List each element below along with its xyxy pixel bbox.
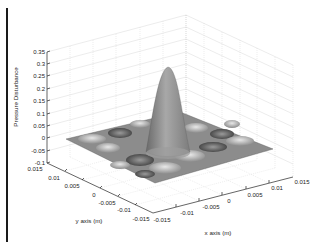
svg-text:0.15: 0.15 bbox=[33, 98, 45, 104]
svg-text:-0.01: -0.01 bbox=[180, 210, 194, 216]
surface-plot: 0.35 0.3 0.25 0.2 0.15 0.1 0.05 0 -0.05 … bbox=[0, 0, 327, 242]
svg-text:0: 0 bbox=[92, 192, 96, 198]
z-tick-labels: 0.35 0.3 0.25 0.2 0.15 0.1 0.05 0 -0.05 … bbox=[31, 49, 45, 166]
svg-text:0: 0 bbox=[227, 198, 231, 204]
svg-text:0.005: 0.005 bbox=[247, 192, 263, 198]
x-tick-labels: -0.015 -0.01 -0.005 0 0.005 0.01 0.015 bbox=[153, 179, 310, 223]
svg-text:0.015: 0.015 bbox=[27, 166, 43, 172]
svg-text:-0.01: -0.01 bbox=[117, 207, 131, 213]
z-axis-label: Pressure Disturbance bbox=[12, 67, 19, 127]
svg-text:0.25: 0.25 bbox=[33, 73, 45, 79]
y-tick-labels: 0.015 0.01 0.005 0 -0.005 -0.01 -0.015 bbox=[27, 166, 150, 222]
svg-text:-0.015: -0.015 bbox=[132, 216, 150, 222]
svg-text:0.35: 0.35 bbox=[33, 49, 45, 55]
svg-text:-0.05: -0.05 bbox=[31, 148, 45, 154]
central-peak bbox=[146, 67, 190, 157]
svg-text:0.05: 0.05 bbox=[33, 123, 45, 129]
svg-text:0.005: 0.005 bbox=[64, 183, 80, 189]
y-axis-label: y axis (m) bbox=[76, 217, 103, 224]
x-axis-label: x axis (m) bbox=[205, 229, 232, 236]
svg-text:-0.015: -0.015 bbox=[153, 217, 171, 223]
surface bbox=[66, 67, 273, 183]
svg-text:-0.005: -0.005 bbox=[98, 200, 116, 206]
svg-text:0.01: 0.01 bbox=[48, 175, 60, 181]
svg-text:0.2: 0.2 bbox=[37, 86, 46, 92]
svg-text:0.3: 0.3 bbox=[37, 61, 46, 67]
svg-text:0.015: 0.015 bbox=[294, 179, 310, 185]
svg-text:0.1: 0.1 bbox=[37, 111, 46, 117]
svg-text:-0.005: -0.005 bbox=[202, 204, 220, 210]
svg-text:0.01: 0.01 bbox=[271, 185, 283, 191]
svg-text:0: 0 bbox=[42, 135, 46, 141]
